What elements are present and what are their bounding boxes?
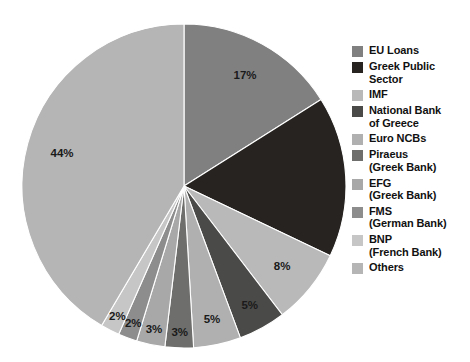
pie-slice-value-label: 2% xyxy=(125,317,142,329)
pie-slice-value-label: 5% xyxy=(241,299,258,311)
legend-item-label: Piraeus (Greek Bank) xyxy=(369,148,436,173)
legend-swatch-icon xyxy=(352,62,363,73)
legend-swatch-icon xyxy=(352,90,363,101)
legend-swatch-icon xyxy=(352,207,363,218)
legend-item-label: Euro NCBs xyxy=(369,132,426,145)
pie-slice-value-label: 8% xyxy=(274,260,291,272)
pie-chart-figure: 17%8%5%5%3%3%2%2%44% EU LoansGreek Publi… xyxy=(0,0,470,362)
legend-swatch-icon xyxy=(352,179,363,190)
legend-item[interactable]: Greek Public Sector xyxy=(352,60,470,85)
legend-item[interactable]: Piraeus (Greek Bank) xyxy=(352,148,470,173)
legend-item[interactable]: Euro NCBs xyxy=(352,132,470,145)
legend-item-label: FMS (German Bank) xyxy=(369,205,447,230)
pie-slice-group xyxy=(22,24,346,348)
legend-item[interactable]: IMF xyxy=(352,88,470,101)
legend-item-label: Others xyxy=(369,261,404,274)
legend-item[interactable]: Others xyxy=(352,261,470,274)
legend-item-label: Greek Public Sector xyxy=(369,60,435,85)
pie-slice-value-label: 3% xyxy=(171,326,188,338)
pie-slice-value-label: 17% xyxy=(233,69,256,81)
legend-swatch-icon xyxy=(352,263,363,274)
pie-svg: 17%8%5%5%3%3%2%2%44% xyxy=(0,0,352,362)
pie-plot-area: 17%8%5%5%3%3%2%2%44% xyxy=(0,0,352,362)
legend-swatch-icon xyxy=(352,235,363,246)
legend-item[interactable]: EU Loans xyxy=(352,44,470,57)
legend-item-label: BNP (French Bank) xyxy=(369,233,442,258)
pie-slice-value-label: 2% xyxy=(109,310,126,322)
legend-item-label: EU Loans xyxy=(369,44,419,57)
pie-slice-value-label: 3% xyxy=(146,323,163,335)
chart-legend: EU LoansGreek Public SectorIMFNational B… xyxy=(352,44,470,277)
legend-item[interactable]: FMS (German Bank) xyxy=(352,205,470,230)
pie-slice-value-label: 5% xyxy=(204,313,221,325)
pie-slice-value-label: 44% xyxy=(51,147,74,159)
legend-item[interactable]: EFG (Greek Bank) xyxy=(352,177,470,202)
legend-swatch-icon xyxy=(352,134,363,145)
legend-item-label: National Bank of Greece xyxy=(369,104,441,129)
legend-item[interactable]: BNP (French Bank) xyxy=(352,233,470,258)
legend-swatch-icon xyxy=(352,150,363,161)
legend-swatch-icon xyxy=(352,46,363,57)
legend-swatch-icon xyxy=(352,106,363,117)
legend-item-label: IMF xyxy=(369,88,388,101)
legend-item[interactable]: National Bank of Greece xyxy=(352,104,470,129)
legend-item-label: EFG (Greek Bank) xyxy=(369,177,436,202)
